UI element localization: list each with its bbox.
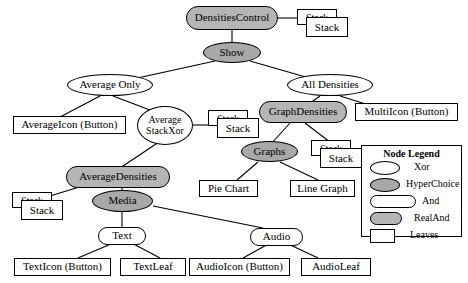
node-densities-control[interactable]: DensitiesControl (186, 6, 278, 30)
node-text-leaf[interactable]: TextLeaf (120, 258, 186, 276)
node-average-stackxor-line1: Average (148, 115, 181, 125)
node-average-icon-button[interactable]: AverageIcon (Button) (13, 116, 126, 134)
realand-shape-icon (370, 212, 402, 225)
node-audio-icon-button[interactable]: AudioIcon (Button) (189, 258, 290, 276)
legend-row-hyperchoice: HyperChoice (362, 176, 461, 193)
legend-label-leaves: Leaves (410, 229, 438, 240)
node-text-icon-button[interactable]: TextIcon (Button) (14, 258, 111, 276)
hyperchoice-shape-icon (370, 178, 400, 192)
node-average-only[interactable]: Average Only (67, 74, 153, 96)
legend-title: Node Legend (362, 148, 461, 159)
legend-label-xor: Xor (414, 161, 430, 172)
stack-node-top[interactable]: Stack Stack (297, 9, 350, 39)
node-all-densities[interactable]: All Densities (287, 74, 373, 96)
node-legend-panel: Node Legend Xor HyperChoice And RealAnd … (361, 145, 462, 237)
xor-shape-icon (370, 161, 400, 175)
legend-label-and: And (422, 195, 439, 206)
node-average-stackxor-line2: StackXor (146, 126, 184, 136)
node-pie-chart[interactable]: Pie Chart (199, 180, 258, 197)
node-graph-densities[interactable]: GraphDensities (259, 101, 347, 123)
and-shape-icon (370, 195, 416, 208)
node-line-graph[interactable]: Line Graph (290, 180, 355, 197)
stack-front-box: Stack (21, 200, 63, 220)
legend-label-hyperchoice: HyperChoice (406, 178, 459, 189)
node-average-stackxor[interactable]: Average StackXor (137, 106, 193, 145)
node-show[interactable]: Show (203, 42, 261, 63)
node-graphs[interactable]: Graphs (241, 141, 298, 162)
legend-label-realand: RealAnd (414, 212, 450, 223)
stack-node-average-stackxor[interactable]: Stack Stack (208, 110, 261, 140)
stack-node-graph-densities[interactable]: Stack Stack (311, 140, 364, 170)
node-media[interactable]: Media (92, 190, 153, 212)
legend-row-xor: Xor (362, 159, 461, 176)
legend-row-leaves: Leaves (362, 227, 461, 244)
node-average-densities[interactable]: AverageDensities (66, 166, 170, 188)
node-audio-leaf[interactable]: AudioLeaf (301, 258, 371, 276)
legend-row-and: And (362, 193, 461, 210)
legend-row-realand: RealAnd (362, 210, 461, 227)
stack-front-box: Stack (217, 118, 259, 138)
node-text[interactable]: Text (98, 227, 146, 245)
node-multi-icon-button[interactable]: MultiIcon (Button) (355, 103, 458, 121)
leaves-shape-icon (370, 229, 395, 243)
stack-front-box: Stack (306, 17, 348, 37)
node-audio[interactable]: Audio (250, 228, 303, 246)
stack-node-average-densities[interactable]: Stack Stack (12, 192, 65, 222)
feature-diagram-canvas: DensitiesControl Stack Stack Show Averag… (0, 0, 468, 283)
stack-front-box: Stack (320, 148, 362, 168)
